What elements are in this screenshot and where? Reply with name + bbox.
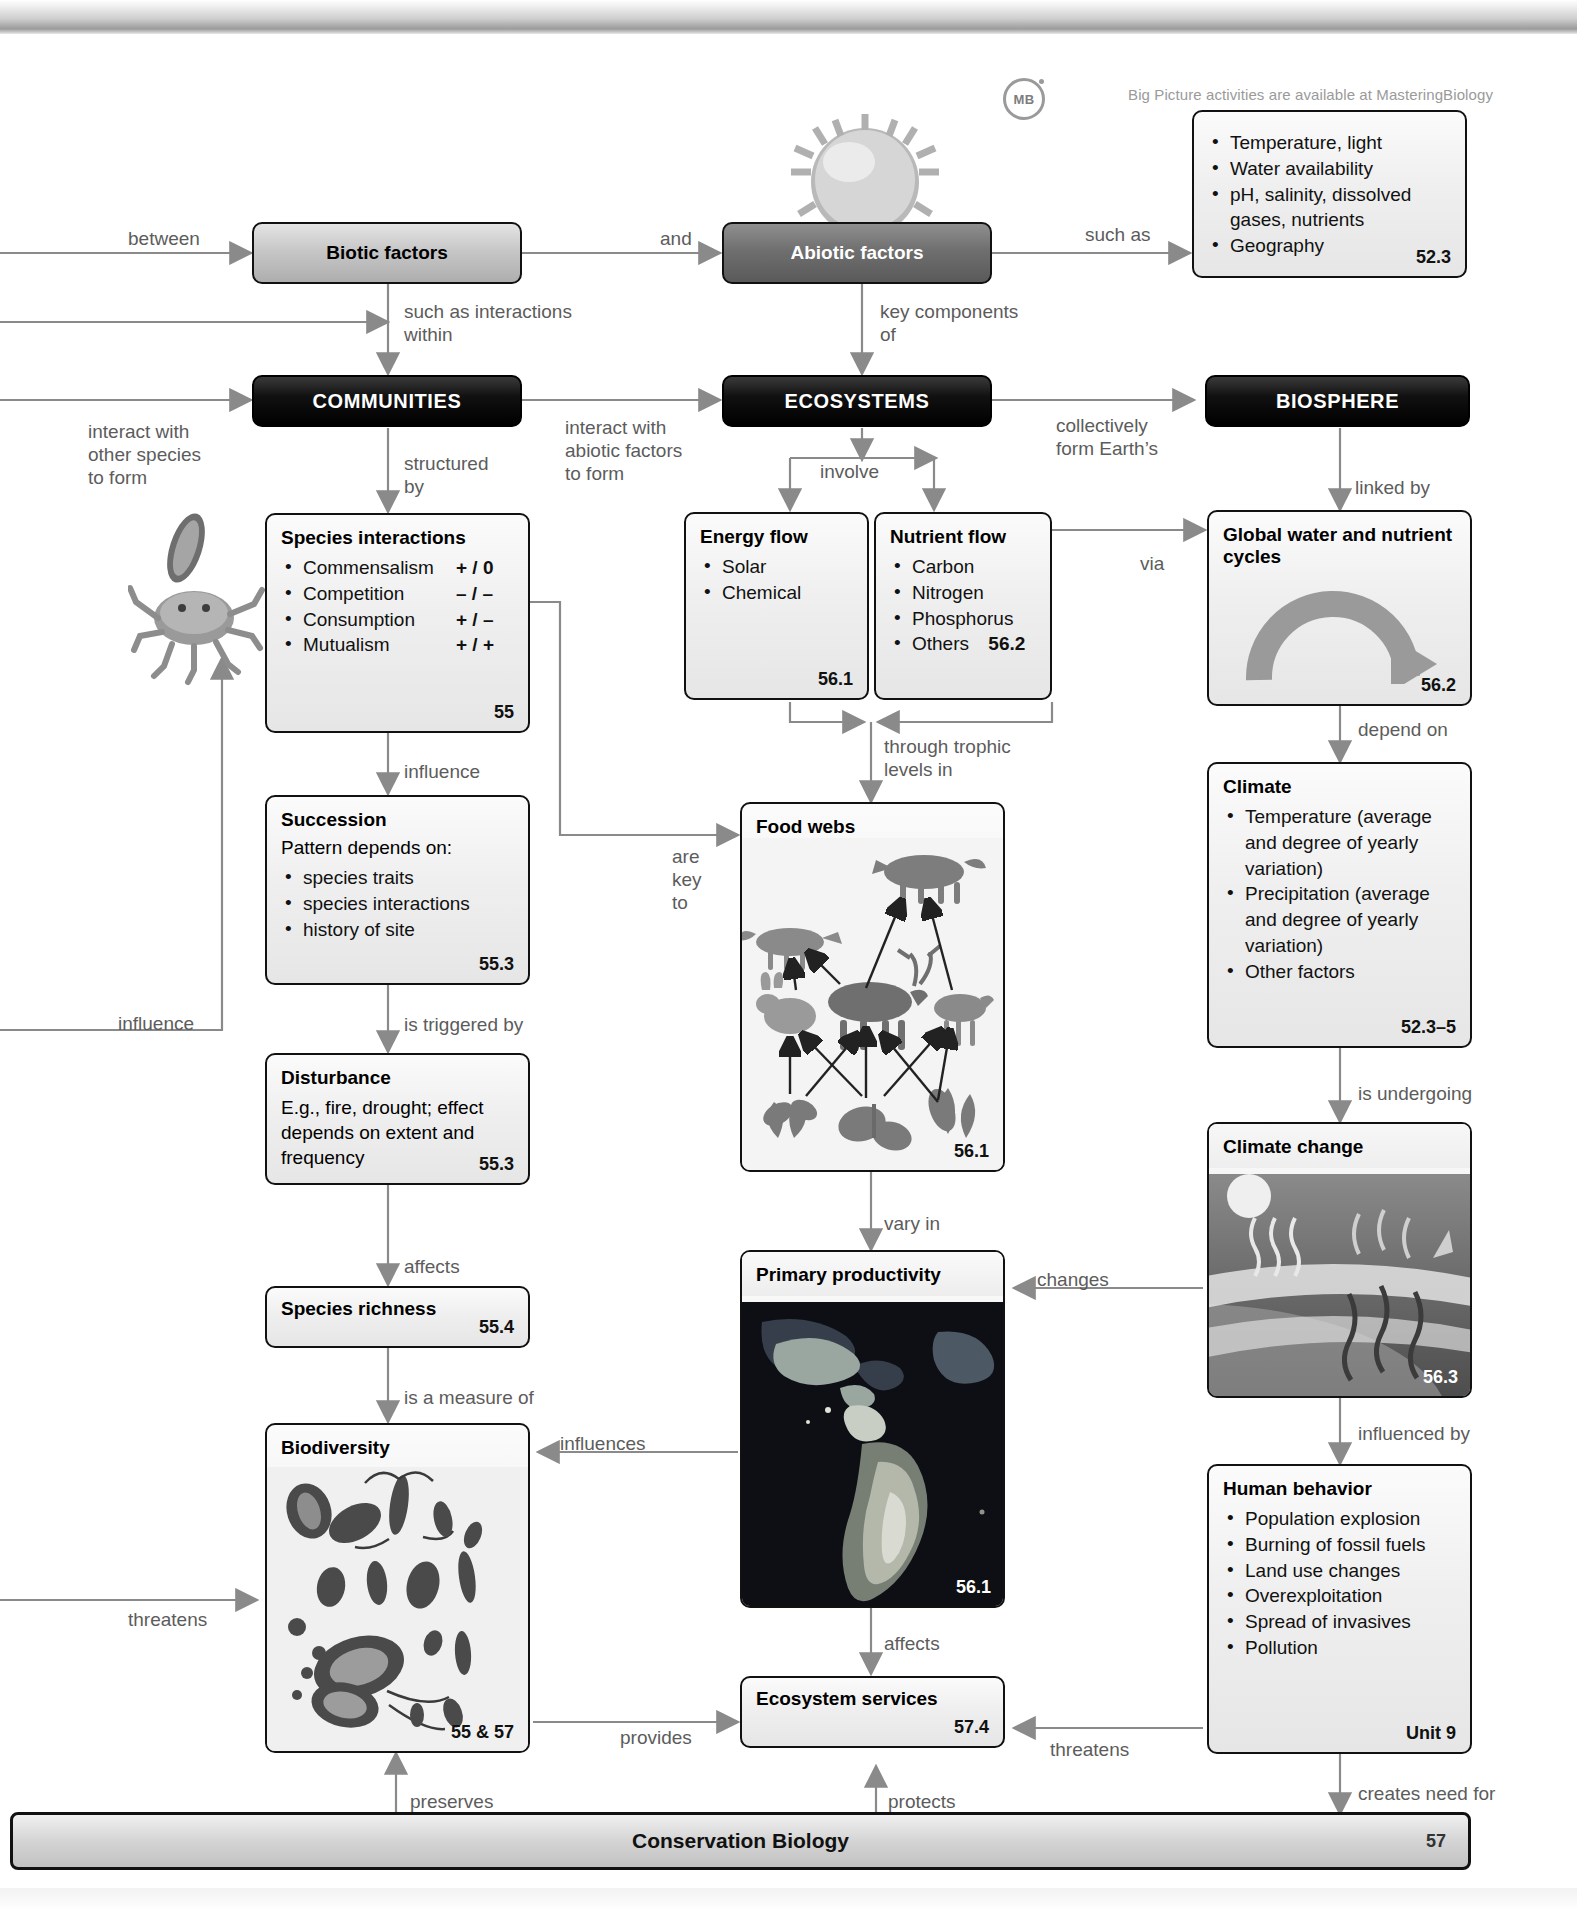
insect-specimens-illustration-icon xyxy=(267,1467,528,1751)
section-ref: 55.4 xyxy=(479,1317,514,1338)
link-label-provides: provides xyxy=(620,1726,692,1749)
list-item: Population explosion xyxy=(1223,1506,1456,1532)
link-label-via: via xyxy=(1140,552,1164,575)
node-communities[interactable]: COMMUNITIES xyxy=(252,375,522,427)
list-item: Consumption + / – xyxy=(281,607,514,633)
node-climate-change[interactable]: Climate change xyxy=(1207,1122,1472,1398)
interaction-effect: – / – xyxy=(456,581,493,607)
node-abiotic-examples[interactable]: Temperature, light Water availability pH… xyxy=(1192,110,1467,278)
list-item: Land use changes xyxy=(1223,1558,1456,1584)
banner-title: Conservation Biology xyxy=(632,1829,849,1853)
species-interactions-list: Commensalism + / 0 Competition – / – Con… xyxy=(281,555,514,658)
node-species-interactions[interactable]: Species interactions Commensalism + / 0 … xyxy=(265,513,530,733)
section-ref: 56.2 xyxy=(1421,675,1456,696)
energy-flow-list: Solar Chemical xyxy=(700,554,853,606)
succession-lead: Pattern depends on: xyxy=(281,837,514,859)
list-item: Other factors xyxy=(1223,959,1456,985)
node-species-interactions-title: Species interactions xyxy=(281,527,514,549)
node-communities-title: COMMUNITIES xyxy=(313,390,462,413)
node-disturbance-title: Disturbance xyxy=(281,1067,514,1089)
list-item: Solar xyxy=(700,554,853,580)
sun-illustration-icon xyxy=(785,110,945,240)
node-biodiversity[interactable]: Biodiversity xyxy=(265,1423,530,1753)
link-label-is-a-measure-of: is a measure of xyxy=(404,1386,534,1409)
interaction-effect: + / 0 xyxy=(456,555,494,581)
node-disturbance[interactable]: Disturbance E.g., fire, drought; effect … xyxy=(265,1053,530,1185)
link-label-affects-bottom: affects xyxy=(884,1632,940,1655)
interaction-effect: + / – xyxy=(456,607,494,633)
node-ecosystem-services[interactable]: Ecosystem services 57.4 xyxy=(740,1676,1005,1748)
list-item: Mutualism + / + xyxy=(281,632,514,658)
node-biotic-factors-title: Biotic factors xyxy=(326,242,447,264)
list-item: Carbon xyxy=(890,554,1036,580)
list-item: Competition – / – xyxy=(281,581,514,607)
list-item: species traits xyxy=(281,865,514,891)
section-ref: 55.3 xyxy=(479,954,514,975)
node-climate-change-title: Climate change xyxy=(1223,1136,1456,1158)
list-item: Nitrogen xyxy=(890,580,1036,606)
section-ref: 52.3 xyxy=(1416,247,1451,268)
link-label-are-key-to: are key to xyxy=(672,845,702,915)
succession-list: species traits species interactions hist… xyxy=(281,865,514,942)
node-human-behavior[interactable]: Human behavior Population explosion Burn… xyxy=(1207,1464,1472,1754)
node-succession[interactable]: Succession Pattern depends on: species t… xyxy=(265,795,530,985)
node-energy-flow[interactable]: Energy flow Solar Chemical 56.1 xyxy=(684,512,869,700)
list-item: Overexploitation xyxy=(1223,1583,1456,1609)
node-primary-productivity-title: Primary productivity xyxy=(756,1264,989,1286)
link-label-through-trophic-levels: through trophic levels in xyxy=(884,735,1011,781)
node-biotic-factors[interactable]: Biotic factors xyxy=(252,222,522,284)
node-climate-title: Climate xyxy=(1223,776,1456,798)
link-label-vary-in: vary in xyxy=(884,1212,940,1235)
section-ref: 52.3–5 xyxy=(1401,1017,1456,1038)
node-food-webs[interactable]: Food webs xyxy=(740,802,1005,1172)
section-ref: Unit 9 xyxy=(1406,1723,1456,1744)
interaction-name: Mutualism xyxy=(303,634,390,655)
node-abiotic-factors[interactable]: Abiotic factors xyxy=(722,222,992,284)
link-label-affects-left: affects xyxy=(404,1255,460,1278)
node-biosphere[interactable]: BIOSPHERE xyxy=(1205,375,1470,427)
link-label-influences: influences xyxy=(560,1432,646,1455)
masteringbiology-badge-icon: MB xyxy=(1003,78,1045,120)
node-ecosystem-services-title: Ecosystem services xyxy=(756,1688,989,1710)
section-ref: 57.4 xyxy=(954,1717,989,1738)
list-item: species interactions xyxy=(281,891,514,917)
node-species-richness[interactable]: Species richness 55.4 xyxy=(265,1286,530,1348)
link-label-such-as: such as xyxy=(1085,223,1150,246)
human-behavior-list: Population explosion Burning of fossil f… xyxy=(1223,1506,1456,1661)
page-edge-top xyxy=(0,0,1577,34)
link-label-creates-need-for: creates need for xyxy=(1358,1782,1495,1805)
nutrient-flow-list: Carbon Nitrogen Phosphorus Others 56.2 xyxy=(890,554,1036,657)
section-ref: 56.2 xyxy=(988,633,1025,654)
list-item: Temperature, light xyxy=(1208,130,1451,156)
list-item: Chemical xyxy=(700,580,853,606)
crab-mussel-illustration-icon xyxy=(128,510,268,700)
link-label-threatens-left: threatens xyxy=(128,1608,207,1631)
concept-map-page: Big Picture activities are available at … xyxy=(0,0,1577,1910)
link-label-threatens-right: threatens xyxy=(1050,1738,1129,1761)
link-label-and: and xyxy=(660,227,692,250)
node-global-cycles[interactable]: Global water and nutrient cycles 56.2 xyxy=(1207,510,1472,706)
list-item: Commensalism + / 0 xyxy=(281,555,514,581)
link-label-preserves: preserves xyxy=(410,1790,493,1813)
node-primary-productivity[interactable]: Primary productivity xyxy=(740,1250,1005,1608)
node-climate[interactable]: Climate Temperature (average and degree … xyxy=(1207,762,1472,1048)
link-label-protects: protects xyxy=(888,1790,956,1813)
list-item-label: Others xyxy=(912,633,969,654)
node-ecosystems[interactable]: ECOSYSTEMS xyxy=(722,375,992,427)
node-energy-flow-title: Energy flow xyxy=(700,526,853,548)
list-item: Precipitation (average and degree of yea… xyxy=(1223,881,1456,958)
section-ref: 55.3 xyxy=(479,1154,514,1175)
link-label-linked-by: linked by xyxy=(1355,476,1430,499)
node-human-behavior-title: Human behavior xyxy=(1223,1478,1456,1500)
list-item: Pollution xyxy=(1223,1635,1456,1661)
node-biosphere-title: BIOSPHERE xyxy=(1276,390,1399,413)
bottom-banner[interactable]: Conservation Biology 57 xyxy=(10,1812,1471,1870)
node-nutrient-flow-title: Nutrient flow xyxy=(890,526,1036,548)
interaction-name: Competition xyxy=(303,583,404,604)
list-item: pH, salinity, dissolved gases, nutrients xyxy=(1208,182,1451,234)
interaction-name: Commensalism xyxy=(303,557,434,578)
page-edge-bottom xyxy=(0,1888,1577,1910)
masteringbiology-note: Big Picture activities are available at … xyxy=(1128,86,1493,103)
list-item: history of site xyxy=(281,917,514,943)
node-nutrient-flow[interactable]: Nutrient flow Carbon Nitrogen Phosphorus… xyxy=(874,512,1052,700)
